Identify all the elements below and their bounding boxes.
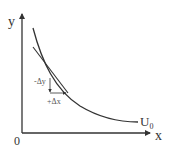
delta-x-label: +Δx bbox=[47, 97, 61, 106]
tangent-line bbox=[33, 47, 68, 93]
indifference-curve-u0 bbox=[33, 28, 138, 122]
indifference-curve-diagram: y x 0 -Δy +Δx U0 bbox=[0, 0, 173, 155]
origin-label: 0 bbox=[14, 134, 20, 148]
y-axis-label: y bbox=[8, 14, 15, 29]
curve-label: U0 bbox=[140, 114, 153, 131]
x-axis-label: x bbox=[155, 128, 162, 143]
delta-y-label: -Δy bbox=[34, 77, 46, 86]
